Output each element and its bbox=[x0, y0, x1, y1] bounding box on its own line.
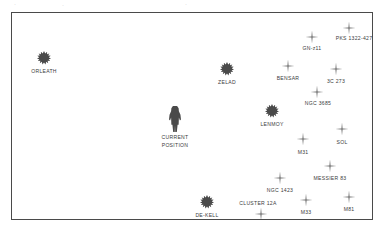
gn-z11-cross-star-icon[interactable] bbox=[306, 31, 319, 44]
top-artifact-0: · bbox=[14, 1, 17, 7]
3c-273-label: 3C 273 bbox=[327, 78, 345, 85]
pks-1322-427-cross-star-icon[interactable] bbox=[343, 22, 356, 35]
de-kell-label: DE-KELL bbox=[195, 212, 218, 219]
pks-1322-427-label: PKS 1322-427 bbox=[336, 35, 373, 42]
orleath-label: ORLEATH bbox=[31, 68, 57, 75]
m33-cross-star-icon[interactable] bbox=[300, 194, 313, 207]
gn-z11-label: GN-z11 bbox=[303, 45, 322, 52]
cluster-12a-label: CLUSTER 12A bbox=[239, 200, 276, 207]
m81-label: M81 bbox=[344, 206, 355, 213]
sol-label: SOL bbox=[336, 139, 347, 146]
current-position-label-line2: POSITION bbox=[162, 142, 189, 150]
m33-label: M33 bbox=[301, 209, 312, 216]
star-chart-map: ··· ORLEATHZELADLENMOYDE-KELLCURRENTPOSI… bbox=[0, 0, 386, 234]
map-frame-border: ORLEATHZELADLENMOYDE-KELLCURRENTPOSITION… bbox=[11, 12, 373, 220]
bensar-cross-star-icon[interactable] bbox=[282, 60, 295, 73]
ngc-3685-cross-star-icon[interactable] bbox=[311, 86, 324, 99]
sol-cross-star-icon[interactable] bbox=[336, 123, 349, 136]
top-artifact-2: · bbox=[185, 1, 188, 7]
m81-cross-star-icon[interactable] bbox=[343, 191, 356, 204]
zelad-star-icon[interactable] bbox=[220, 62, 234, 76]
lenmoy-label: LENMOY bbox=[260, 121, 283, 128]
ngc-1423-cross-star-icon[interactable] bbox=[274, 172, 287, 185]
current-position-label: CURRENTPOSITION bbox=[162, 134, 189, 149]
lenmoy-star-icon[interactable] bbox=[265, 104, 279, 118]
m31-cross-star-icon[interactable] bbox=[297, 133, 310, 146]
top-artifact-1: · bbox=[62, 2, 65, 8]
messier-83-label: MESSIER 83 bbox=[314, 175, 347, 182]
3c-273-cross-star-icon[interactable] bbox=[330, 63, 343, 76]
cluster-12a-cross-star-icon[interactable] bbox=[255, 208, 268, 221]
m31-label: M31 bbox=[298, 149, 309, 156]
messier-83-cross-star-icon[interactable] bbox=[324, 160, 337, 173]
zelad-label: ZELAD bbox=[218, 79, 236, 86]
current-position-label-line1: CURRENT bbox=[162, 134, 189, 142]
ngc-1423-label: NGC 1423 bbox=[267, 187, 293, 194]
ngc-3685-label: NGC 3685 bbox=[305, 100, 331, 107]
de-kell-star-icon[interactable] bbox=[200, 195, 214, 209]
bensar-label: BENSAR bbox=[277, 75, 300, 82]
current-position-figure-icon[interactable] bbox=[169, 106, 182, 132]
orleath-star-icon[interactable] bbox=[37, 51, 51, 65]
